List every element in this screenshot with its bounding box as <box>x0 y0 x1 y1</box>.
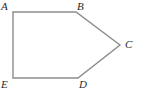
vertex-label-b: B <box>77 1 84 12</box>
geometry-figure: A B C D E <box>0 0 143 94</box>
vertex-label-c: C <box>125 39 132 50</box>
pentagon-shape <box>0 0 143 94</box>
pentagon-outline <box>13 12 120 78</box>
vertex-label-a: A <box>1 1 8 12</box>
vertex-label-d: D <box>79 79 87 90</box>
vertex-label-e: E <box>1 79 8 90</box>
